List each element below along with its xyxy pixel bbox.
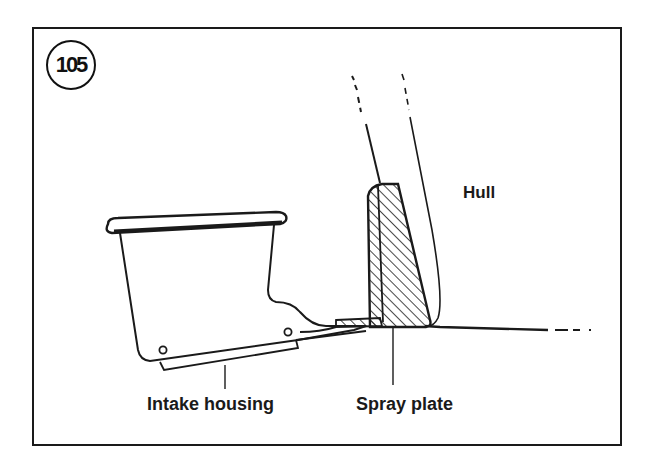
intake-housing [107,212,366,370]
intake-housing-label: Intake housing [147,394,274,415]
spray-plate [336,184,431,327]
spray-plate-label: Spray plate [356,394,453,415]
technical-drawing [0,0,654,475]
hull-label: Hull [463,183,495,203]
